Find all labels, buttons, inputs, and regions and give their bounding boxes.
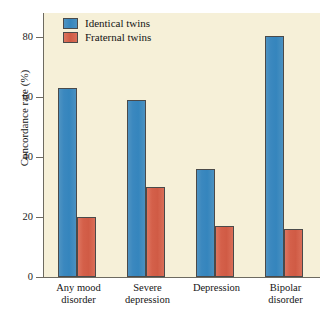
legend: Identical twins Fraternal twins <box>63 18 151 46</box>
legend-item-identical-twins: Identical twins <box>63 18 151 29</box>
bar-fraternal-3 <box>284 229 303 277</box>
y-tick-label-0: 0 <box>0 272 33 283</box>
legend-swatch-fraternal-twins <box>63 32 78 43</box>
bar-group <box>265 13 303 277</box>
x-label-line: depression <box>104 294 191 306</box>
bar-identical-0 <box>58 88 77 277</box>
y-tick-40 <box>36 157 43 158</box>
x-axis-line <box>43 277 320 278</box>
legend-item-fraternal-twins: Fraternal twins <box>63 32 151 43</box>
y-tick-60 <box>36 97 43 98</box>
bar-identical-3 <box>265 36 284 278</box>
y-tick-20 <box>36 217 43 218</box>
bar-group <box>196 13 234 277</box>
legend-label-identical-twins: Identical twins <box>85 18 150 29</box>
y-tick-80 <box>36 37 43 38</box>
x-label-line: Bipolar <box>242 282 329 294</box>
bar-fraternal-1 <box>146 187 165 277</box>
y-tick-label-20: 20 <box>0 212 33 223</box>
x-axis-label-3: Bipolardisorder <box>242 282 329 305</box>
bar-identical-2 <box>196 169 215 277</box>
bar-group <box>127 13 165 277</box>
concordance-rate-bar-chart: 020406080 Concordance rate (%) Any moodd… <box>0 0 334 322</box>
y-axis-title: Concordance rate (%) <box>18 28 30 208</box>
bars-layer <box>44 13 320 277</box>
legend-label-fraternal-twins: Fraternal twins <box>85 32 151 43</box>
bar-fraternal-0 <box>77 217 96 277</box>
legend-swatch-identical-twins <box>63 18 78 29</box>
bar-identical-1 <box>127 100 146 277</box>
y-tick-0 <box>36 277 43 278</box>
bar-group <box>58 13 96 277</box>
bar-fraternal-2 <box>215 226 234 277</box>
x-label-line: disorder <box>242 294 329 306</box>
